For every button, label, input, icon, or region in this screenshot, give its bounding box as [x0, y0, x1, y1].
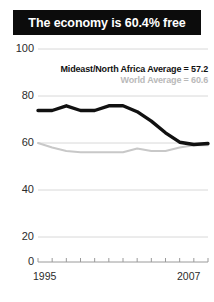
chart-legend: Mideast/North Africa Average = 57.2 Worl… — [36, 64, 208, 87]
legend-item-mideast-north-africa: Mideast/North Africa Average = 57.2 — [36, 64, 208, 75]
y-tick-100-label: 100 — [4, 43, 34, 54]
y-tick-40-label: 40 — [4, 184, 34, 195]
y-tick-20-label: 20 — [4, 231, 34, 242]
x-tick-1995-label: 1995 — [33, 270, 56, 282]
series-mideast-north-africa-average — [38, 106, 208, 145]
legend-item-world-average: World Average = 60.6 — [36, 75, 208, 86]
chart-figure: The economy is 60.4% free — [0, 0, 214, 302]
x-tick-marks — [38, 258, 208, 262]
y-tick-0-label: 0 — [4, 256, 34, 267]
y-tick-60-label: 60 — [4, 137, 34, 148]
x-tick-2007-label: 2007 — [177, 270, 200, 282]
y-tick-80-label: 80 — [4, 90, 34, 101]
